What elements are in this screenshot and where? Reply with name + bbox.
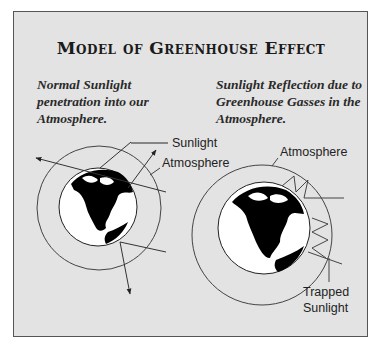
- greenhouse-diagram: Sunlight Atmosphere Atmosphere Trapped S…: [0, 0, 382, 352]
- trapped-ray-side: [312, 218, 328, 258]
- right-trapped-sunlight-diagram: Atmosphere Trapped Sunlight: [192, 145, 349, 315]
- left-lower-ray-in: [120, 242, 166, 252]
- left-globe-icon: [59, 168, 137, 246]
- sunlight-label: Sunlight: [172, 136, 218, 150]
- left-escape-ray-down: [120, 242, 130, 294]
- left-normal-sunlight-diagram: Sunlight Atmosphere: [36, 136, 229, 294]
- trapped-label-line2: Sunlight: [303, 301, 349, 315]
- atmosphere-label-left: Atmosphere: [162, 156, 229, 170]
- atmosphere-label-leader-right: [272, 158, 278, 166]
- right-incoming-ray-bottom: [308, 252, 342, 264]
- atmosphere-label-right: Atmosphere: [280, 145, 347, 159]
- right-globe-icon: [218, 182, 310, 274]
- trapped-label-line1: Trapped: [303, 285, 349, 299]
- atmosphere-label-leader-left: [150, 168, 160, 175]
